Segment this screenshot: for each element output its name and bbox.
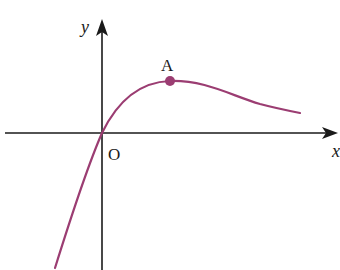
origin-label: O (108, 145, 120, 164)
function-graph: y x O A (0, 0, 340, 270)
x-axis (5, 127, 338, 139)
point-a-label: A (161, 56, 174, 75)
y-axis-label: y (79, 17, 89, 37)
point-a-marker (165, 76, 175, 86)
function-curve (55, 81, 300, 268)
x-axis-label: x (331, 141, 340, 161)
